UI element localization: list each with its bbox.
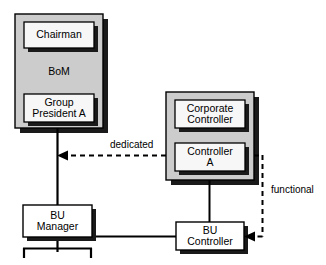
functional-label: functional (271, 184, 314, 195)
group-president-a-node (24, 94, 98, 126)
chairman-node (24, 22, 98, 52)
bu-controller-body (176, 222, 244, 250)
chairman-body (24, 22, 94, 48)
dedicated-arrow-head (57, 151, 68, 161)
bu-manager-node (23, 205, 96, 241)
controller-a-body (175, 143, 245, 171)
dedicated-label: dedicated (110, 139, 153, 150)
group-president-a-body (24, 94, 94, 122)
corporate-controller-body (175, 100, 245, 128)
bom-group-caption: BoM (15, 65, 103, 77)
dedicated-arrow (57, 151, 166, 161)
org-chart-diagram: Chairman BoM Group President A Corporate… (0, 0, 326, 265)
bu-controller-node (176, 222, 248, 254)
subordinate-bracket (23, 248, 92, 258)
corporate-controller-node (175, 100, 249, 132)
controller-a-node (175, 143, 249, 175)
bu-manager-body (23, 205, 92, 237)
diagram-canvas (0, 0, 326, 265)
